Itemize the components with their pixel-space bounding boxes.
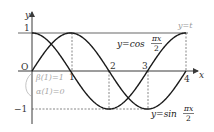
t-line-label: y=t — [177, 21, 193, 30]
chart-root: y x O 1 −1 1 2 3 4 y=t β(1)=1 α(1)=0 y=c… — [0, 0, 214, 132]
y-tick-1: 1 — [24, 23, 30, 33]
svg-text:y=sin: y=sin — [150, 109, 177, 119]
svg-text:y=cos: y=cos — [116, 39, 145, 49]
chart-svg: y x O 1 −1 1 2 3 4 y=t β(1)=1 α(1)=0 y=c… — [0, 0, 214, 132]
x-tick-4: 4 — [184, 74, 190, 84]
x-axis-label: x — [199, 70, 204, 80]
x-tick-2: 2 — [110, 61, 116, 71]
svg-text:πx: πx — [183, 104, 194, 113]
svg-text:2: 2 — [186, 114, 191, 123]
y-axis-label: y — [24, 10, 31, 20]
svg-text:πx: πx — [151, 34, 162, 43]
cos-label: y=cos πx 2 — [116, 34, 162, 53]
annotation-bracket — [26, 74, 31, 96]
x-tick-1: 1 — [69, 72, 75, 82]
origin-label: O — [21, 62, 28, 72]
svg-text:2: 2 — [154, 44, 159, 53]
annotation-alpha: α(1)=0 — [36, 87, 65, 96]
x-tick-3: 3 — [142, 61, 148, 71]
y-tick-minus1: −1 — [14, 104, 27, 114]
annotation-beta: β(1)=1 — [35, 73, 64, 82]
